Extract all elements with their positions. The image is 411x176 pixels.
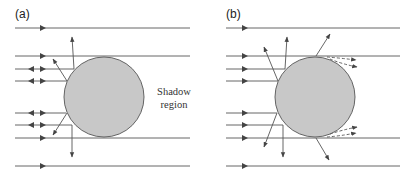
panel-a: (a) <box>0 0 205 176</box>
shadow-label-line1: Shadow <box>149 85 199 98</box>
panel-b: (b) <box>205 0 411 176</box>
panel-b-diagram <box>205 0 411 176</box>
shadow-region-label: Shadow region <box>149 85 199 111</box>
shadow-label-line2: region <box>149 98 199 111</box>
sphere <box>275 57 355 137</box>
sphere <box>64 57 144 137</box>
